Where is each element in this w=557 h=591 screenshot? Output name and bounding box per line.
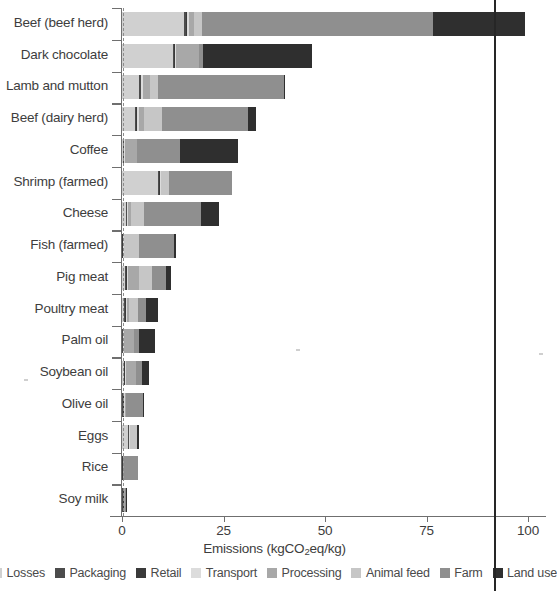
legend-label: Packaging [69, 566, 126, 580]
plot-area [122, 8, 528, 516]
bar-segment-land-use [201, 202, 219, 226]
x-axis-title: Emissions (kgCO2eq/kg) [0, 541, 549, 557]
bar-segment-losses [122, 171, 158, 195]
bar-segment-land-use [146, 298, 158, 322]
scan-artifact-line [494, 0, 496, 591]
bar-segment-animal-feed [144, 107, 162, 131]
legend-item-losses[interactable]: Losses [0, 566, 45, 580]
x-axis-tick-label: 0 [118, 523, 125, 538]
bar-segment-losses [122, 75, 139, 99]
scan-artifact-speck [539, 353, 543, 355]
bar-row [122, 484, 528, 516]
bar-segment-animal-feed [150, 75, 158, 99]
y-axis-label-shrimp-farmed: Shrimp (farmed) [0, 174, 108, 189]
legend-item-farm[interactable]: Farm [440, 566, 483, 580]
legend-item-land-use[interactable]: Land use [493, 566, 557, 580]
legend-swatch-icon [0, 568, 2, 578]
bar-row [122, 230, 528, 262]
y-axis-tick [112, 421, 121, 422]
y-axis-tick [112, 135, 121, 136]
stacked-bar[interactable] [122, 393, 144, 417]
bar-segment-farm [144, 202, 201, 226]
y-axis-label-olive-oil: Olive oil [0, 396, 108, 411]
x-axis-tick-label: 75 [419, 523, 434, 538]
y-axis-tick [112, 167, 121, 168]
bar-segment-farm [162, 107, 248, 131]
bar-segment-animal-feed [124, 234, 139, 258]
y-axis-tick [112, 40, 121, 41]
stacked-bar[interactable] [122, 171, 232, 195]
bar-segment-animal-feed [194, 12, 202, 36]
bar-segment-farm [138, 298, 146, 322]
legend-item-processing[interactable]: Processing [267, 566, 341, 580]
bar-segment-animal-feed [130, 425, 137, 449]
bar-segment-land-use [174, 234, 176, 258]
legend-item-packaging[interactable]: Packaging [55, 566, 126, 580]
bar-row [122, 135, 528, 167]
y-axis-label-pig-meat: Pig meat [0, 269, 108, 284]
bar-segment-land-use [180, 139, 239, 163]
legend-swatch-icon [191, 568, 201, 578]
bar-segment-animal-feed [129, 298, 138, 322]
y-axis-label-fish-farmed: Fish (farmed) [0, 237, 108, 252]
scan-artifact-speck [24, 379, 28, 381]
bar-row [122, 294, 528, 326]
bar-row [122, 357, 528, 389]
legend-label: Losses [7, 566, 45, 580]
stacked-bar[interactable] [122, 329, 155, 353]
stacked-bar[interactable] [122, 266, 171, 290]
legend-item-animal-feed[interactable]: Animal feed [351, 566, 429, 580]
bar-segment-farm [152, 266, 166, 290]
legend-label: Land use [507, 566, 557, 580]
x-axis-tick [325, 516, 326, 522]
stacked-bar[interactable] [122, 298, 158, 322]
bar-row [122, 103, 528, 135]
legend-label: Animal feed [366, 566, 430, 580]
bar-segment-land-use [137, 425, 139, 449]
stacked-bar[interactable] [122, 139, 238, 163]
bar-row [122, 389, 528, 421]
y-axis-label-coffee: Coffee [0, 142, 108, 157]
y-axis-label-eggs: Eggs [0, 428, 108, 443]
bar-row [122, 421, 528, 453]
y-axis-label-poultry-meat: Poultry meat [0, 301, 108, 316]
y-axis-label-rice: Rice [0, 459, 108, 474]
y-axis-label-beef-beef-herd: Beef (beef herd) [0, 15, 108, 30]
bar-segment-land-use [166, 266, 171, 290]
stacked-bar[interactable] [122, 456, 138, 480]
bar-segment-animal-feed [161, 171, 170, 195]
y-axis-tick [112, 326, 121, 327]
bar-segment-farm [124, 456, 139, 480]
y-axis-tick [112, 199, 121, 200]
stacked-bar[interactable] [122, 425, 139, 449]
x-axis-tick-label: 100 [517, 523, 539, 538]
y-axis-label-lamb-and-mutton: Lamb and mutton [0, 78, 108, 93]
y-axis-tick [112, 357, 121, 358]
legend-swatch-icon [267, 568, 277, 578]
bar-segment-animal-feed [131, 202, 144, 226]
zero-reference-line [123, 8, 124, 516]
legend-item-retail[interactable]: Retail [136, 566, 181, 580]
bar-segment-land-use [248, 107, 256, 131]
y-axis-tick [112, 389, 121, 390]
stacked-bar[interactable] [122, 234, 176, 258]
stacked-bar[interactable] [122, 107, 256, 131]
y-axis-tick [112, 262, 121, 263]
stacked-bar[interactable] [122, 44, 312, 68]
x-axis-tick [427, 516, 428, 522]
stacked-bar[interactable] [122, 12, 525, 36]
stacked-bar[interactable] [122, 361, 149, 385]
y-axis-label-cheese: Cheese [0, 205, 108, 220]
legend-label: Farm [454, 566, 482, 580]
bar-row [122, 72, 528, 104]
x-axis-line [110, 516, 546, 517]
legend-item-transport[interactable]: Transport [191, 566, 257, 580]
stacked-bar[interactable] [122, 75, 285, 99]
x-axis-tick-label: 25 [216, 523, 231, 538]
bar-segment-land-use [203, 44, 311, 68]
scan-artifact-speck [296, 349, 300, 351]
bar-segment-processing [176, 44, 200, 68]
y-axis-label-palm-oil: Palm oil [0, 332, 108, 347]
y-axis-label-beef-dairy-herd: Beef (dairy herd) [0, 110, 108, 125]
stacked-bar[interactable] [122, 202, 219, 226]
